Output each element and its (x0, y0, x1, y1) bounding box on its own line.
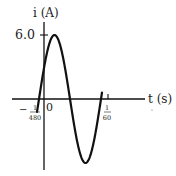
y-axis-label: i (A) (33, 6, 59, 20)
pos-tick-denominator: 60 (103, 114, 111, 122)
neg-tick-numerator: 1 (33, 104, 37, 112)
y-tick-label: 6.0 (15, 27, 35, 42)
x-axis-label: t (s) (148, 92, 172, 106)
pos-tick-numerator: 1 (105, 104, 109, 112)
stray-dot (151, 109, 152, 110)
origin-label: 0 (46, 101, 53, 114)
sine-current-chart: i (A) 6.0 t (s) 0 − 1 480 1 60 (0, 0, 176, 176)
neg-tick-sign: − (19, 104, 27, 115)
neg-tick-denominator: 480 (29, 114, 41, 122)
